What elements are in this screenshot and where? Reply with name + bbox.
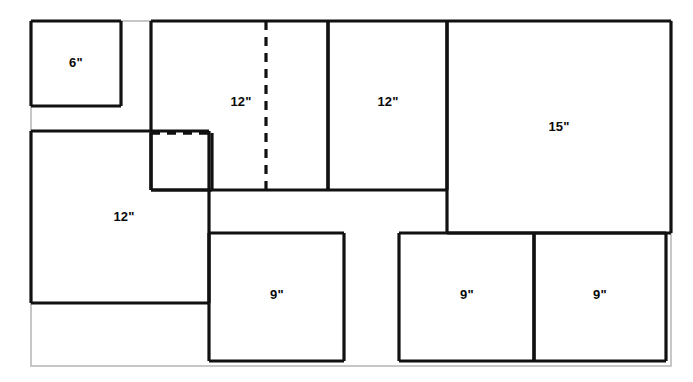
panel-layout-diagram: 6"12"12"15"12"9"9"9" [0, 0, 693, 382]
diagram-canvas [0, 0, 693, 382]
